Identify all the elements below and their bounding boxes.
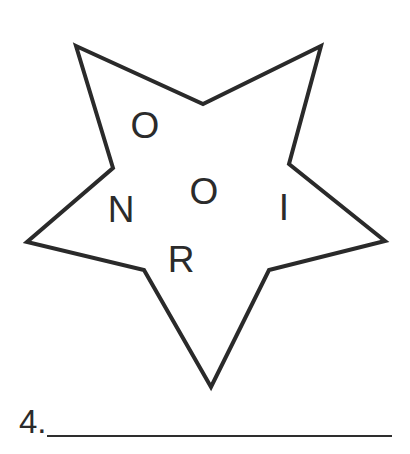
star-letter-puzzle: O N O I R 4. bbox=[0, 0, 410, 454]
star-shape bbox=[0, 0, 410, 454]
scrambled-letter-3: O bbox=[190, 173, 219, 210]
scrambled-letter-4: I bbox=[279, 189, 289, 226]
answer-row: 4. bbox=[19, 405, 399, 445]
scrambled-letter-5: R bbox=[168, 241, 195, 278]
scrambled-letter-2: N bbox=[108, 191, 135, 228]
scrambled-letter-1: O bbox=[131, 107, 160, 144]
star-outline bbox=[27, 46, 385, 387]
answer-blank-line[interactable] bbox=[47, 435, 392, 437]
question-number: 4. bbox=[19, 405, 47, 438]
